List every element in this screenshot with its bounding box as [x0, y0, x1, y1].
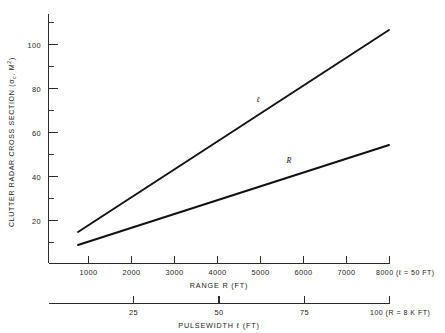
secondary-x-tick-label-50: 50 [215, 308, 224, 317]
secondary-x-axis-title: PULSEWIDTH ℓ (FT) [178, 321, 259, 330]
secondary-x-axis-end-note: 100 (R = 8 K FT) [370, 309, 430, 317]
x-tick-label-7000: 7000 [338, 268, 356, 277]
series-annotation-pulsewidth: ℓ [256, 95, 260, 104]
y-tick-label-80: 80 [32, 85, 41, 94]
x-axis-end-note: 8000 (ℓ = 50 FT) [376, 269, 435, 277]
y-tick-label-60: 60 [32, 129, 41, 138]
y-axis-unit-mid: , M [8, 64, 15, 76]
x-tick-label-6000: 6000 [295, 268, 313, 277]
clutter-radar-cross-section-chart: 100 80 60 40 20 CLUTTER RADAR CROSS SECT… [0, 0, 445, 333]
secondary-x-axis-ticks [134, 296, 390, 304]
secondary-x-tick-label-75: 75 [300, 308, 309, 317]
x-tick-label-3000: 3000 [166, 268, 184, 277]
chart-canvas: 100 80 60 40 20 CLUTTER RADAR CROSS SECT… [0, 0, 445, 333]
x-axis-title: RANGE R (FT) [190, 281, 249, 290]
x-axis-ticks [89, 256, 390, 264]
x-tick-label-1000: 1000 [80, 268, 98, 277]
secondary-x-tick-label-25: 25 [129, 308, 138, 317]
data-line-range [78, 145, 389, 245]
data-line-pulsewidth [78, 30, 389, 232]
x-tick-label-2000: 2000 [123, 268, 141, 277]
y-axis-major-ticks [49, 45, 59, 221]
y-tick-label-40: 40 [32, 173, 41, 182]
y-tick-label-20: 20 [32, 217, 41, 226]
svg-text:CLUTTER RADAR CROSS SECTION (σ: CLUTTER RADAR CROSS SECTION (σc, M2) [6, 57, 17, 227]
y-tick-label-100: 100 [28, 41, 41, 50]
x-tick-label-4000: 4000 [209, 268, 227, 277]
series-annotation-range: R [286, 156, 292, 165]
y-axis-title: CLUTTER RADAR CROSS SECTION (σc, M2) [6, 57, 17, 227]
x-tick-label-5000: 5000 [252, 268, 270, 277]
y-axis-title-text: CLUTTER RADAR CROSS SECTION [8, 89, 15, 227]
y-axis-unit-close: ) [8, 57, 16, 60]
